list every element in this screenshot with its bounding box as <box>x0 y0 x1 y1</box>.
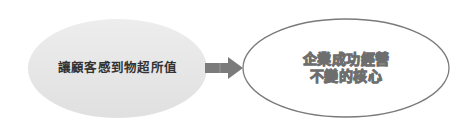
diagram-canvas: 讓顧客感到物超所值 企業成功經營 不變的核心 <box>0 0 474 129</box>
node-customer-value-label: 讓顧客感到物超所值 <box>28 62 207 75</box>
node-core-of-business-label: 企業成功經營 不變的核心 <box>243 51 449 85</box>
node-core-of-business-label-line-2: 不變的核心 <box>243 68 449 85</box>
node-core-of-business-label-line-1: 企業成功經營 <box>243 51 449 68</box>
flow-arrow-icon <box>205 57 243 79</box>
